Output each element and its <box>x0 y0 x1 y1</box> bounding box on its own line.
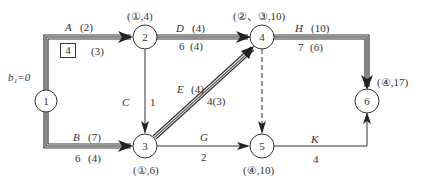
node-2: 2 <box>134 26 156 48</box>
edge-k <box>274 112 371 146</box>
edge-d-top-value: (4) <box>192 23 205 34</box>
edge-e-name: E <box>177 84 184 95</box>
node-4: 4 <box>251 26 273 48</box>
edge-h <box>274 35 373 90</box>
edge-b-top-value: (7) <box>88 132 101 143</box>
edge-c <box>141 49 149 134</box>
edge-h-name: H <box>295 23 303 34</box>
node-1: 1 <box>35 90 57 112</box>
edge-dummy <box>258 49 266 134</box>
edge-c-value: 1 <box>150 97 156 108</box>
edge-e-top-value: (4) <box>191 84 204 95</box>
node-3: 3 <box>134 135 156 157</box>
edge-a-bottom-paren: (3) <box>91 46 104 57</box>
edge-h-top-value: (10) <box>311 23 329 34</box>
edge-k-value: 4 <box>313 154 319 165</box>
edge-d-bottom-value: 6 <box>179 41 185 52</box>
node-6-annotation: (④,17) <box>377 77 408 88</box>
edge-g-value: 2 <box>201 152 207 163</box>
edge-e-bottom-value: 4(3) <box>207 96 225 107</box>
edge-k-name: K <box>311 134 318 145</box>
edge-a-top-value: (2) <box>80 22 93 33</box>
node-5-annotation: (④,10) <box>243 165 274 176</box>
edge-h-bottom-paren: (6) <box>310 42 323 53</box>
edge-b-name: B <box>73 132 80 143</box>
node-4-annotation: (②、③,10) <box>233 11 285 22</box>
edge-b-bottom-paren: (4) <box>88 153 101 164</box>
node-5: 5 <box>251 135 273 157</box>
node-6: 6 <box>356 90 378 112</box>
node-2-annotation: (①,4) <box>127 11 153 22</box>
edge-g-name: G <box>200 132 208 143</box>
edge-a <box>44 31 133 90</box>
edge-a-name: A <box>65 22 72 33</box>
start-label: b₁=0 <box>8 72 30 83</box>
edge-d-name: D <box>176 23 184 34</box>
edge-a-boxed-value: 4 <box>60 43 76 58</box>
node-3-annotation: (①,6) <box>133 165 159 176</box>
edge-b-bottom-value: 6 <box>75 153 81 164</box>
edge-h-bottom-value: 7 <box>298 42 304 53</box>
edge-d-bottom-paren: (4) <box>190 41 203 52</box>
edge-g <box>157 142 250 150</box>
edge-c-name: C <box>122 97 129 108</box>
